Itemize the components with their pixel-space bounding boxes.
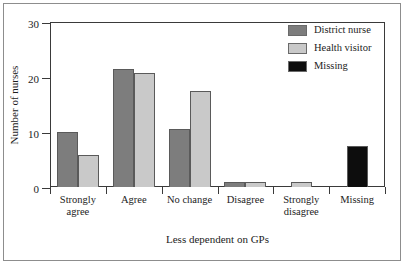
x-axis-label-line: Disagree: [227, 194, 264, 205]
y-axis-tick-label: 0: [34, 184, 40, 195]
x-axis-separator: [162, 187, 163, 194]
bar: [347, 146, 368, 187]
x-axis-label: No change: [162, 194, 218, 217]
legend-label: Health visitor: [314, 43, 371, 54]
legend-label: Missing: [314, 61, 348, 72]
y-axis-tick-label: 20: [28, 74, 39, 85]
x-axis-label-line: Agree: [121, 194, 147, 205]
bar-group: [106, 22, 162, 187]
bar-group: [50, 22, 106, 187]
y-axis-title: Number of nurses: [6, 22, 22, 187]
legend-item: Missing: [288, 61, 371, 72]
legend: District nurseHealth visitorMissing: [288, 25, 371, 72]
x-axis-separator: [106, 187, 107, 194]
x-axis-label: Missing: [329, 194, 385, 217]
x-axis-label: Disagree: [217, 194, 273, 217]
x-axis-separators: [50, 187, 385, 194]
legend-swatch: [288, 61, 307, 72]
x-axis-label-line: agree: [50, 206, 106, 218]
y-axis-tick-label: 30: [28, 19, 39, 30]
x-axis-title: Less dependent on GPs: [50, 233, 385, 245]
x-axis-label-line: Missing: [340, 194, 374, 205]
x-axis-separator: [273, 187, 274, 194]
bar: [134, 73, 155, 187]
x-axis-label-line: disagree: [273, 206, 329, 218]
bar: [57, 132, 78, 187]
x-axis-separator: [218, 187, 219, 194]
legend-item: Health visitor: [288, 43, 371, 54]
y-axis-tick-label: 10: [28, 129, 39, 140]
legend-swatch: [288, 25, 307, 36]
figure-root: Number of nurses 0102030 StronglyagreeAg…: [0, 0, 405, 265]
x-axis-label-line: Strongly: [283, 194, 319, 205]
x-axis-separator: [50, 187, 51, 194]
legend-swatch: [288, 43, 307, 54]
x-axis-label-line: Strongly: [60, 194, 96, 205]
bar: [190, 91, 211, 187]
x-axis-tick-labels: StronglyagreeAgreeNo changeDisagreeStron…: [50, 194, 385, 217]
x-axis-label-line: No change: [167, 194, 212, 205]
x-axis-label: Agree: [106, 194, 162, 217]
legend-label: District nurse: [314, 25, 371, 36]
y-axis-title-text: Number of nurses: [8, 65, 20, 144]
x-axis-label: Stronglyagree: [50, 194, 106, 217]
x-axis-separator: [329, 187, 330, 194]
bar: [78, 155, 99, 187]
legend-item: District nurse: [288, 25, 371, 36]
bar-group: [217, 22, 273, 187]
bar: [169, 129, 190, 187]
bar-group: [162, 22, 218, 187]
bar: [113, 69, 134, 187]
x-axis-separator: [385, 187, 386, 194]
x-axis-label: Stronglydisagree: [273, 194, 329, 217]
